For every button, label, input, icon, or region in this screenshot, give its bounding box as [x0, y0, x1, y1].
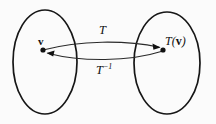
forward-map-curve — [43, 42, 160, 50]
right-set-ellipse — [134, 12, 200, 114]
left-set-ellipse — [13, 10, 77, 114]
image-vector-close-paren: ) — [182, 34, 186, 48]
forward-map-label: T — [99, 24, 106, 37]
image-vector-function: T — [165, 34, 172, 48]
inverse-map-label: T−1 — [96, 63, 112, 77]
inverse-arrow-head — [47, 51, 55, 57]
inverse-map-exponent: −1 — [103, 62, 112, 71]
domain-vector-label: v — [38, 36, 44, 47]
domain-vector-dot — [40, 47, 45, 52]
inverse-map-curve — [48, 51, 164, 60]
transformation-diagram: T T−1 v T(v) — [0, 0, 216, 124]
image-vector-dot — [160, 47, 165, 52]
image-vector-label: T(v) — [165, 35, 186, 47]
inverse-map-base: T — [96, 63, 103, 77]
